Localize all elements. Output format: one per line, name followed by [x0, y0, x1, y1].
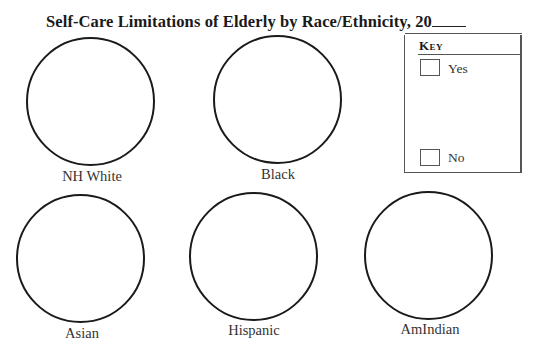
legend-swatch-no [420, 149, 440, 166]
pie-nh-white [26, 37, 155, 166]
year-blank [432, 12, 466, 27]
legend-box: Key Yes No [404, 35, 522, 173]
pie-amindian [364, 191, 493, 320]
pie-black [213, 35, 342, 164]
pie-hispanic [189, 192, 318, 321]
pie-label-black: Black [261, 166, 295, 183]
legend-label-yes: Yes [448, 61, 468, 77]
chart-title-text: Self-Care Limitations of Elderly by Race… [46, 12, 432, 31]
legend-label-no: No [448, 150, 465, 166]
legend-title-rule [418, 54, 522, 55]
key-top-rule [405, 33, 522, 34]
legend-swatch-yes [420, 59, 440, 76]
pie-asian [16, 194, 145, 323]
pie-label-asian: Asian [65, 325, 99, 342]
legend-title: Key [419, 38, 443, 54]
pie-label-nh-white: NH White [62, 168, 122, 185]
chart-title: Self-Care Limitations of Elderly by Race… [46, 12, 466, 32]
pie-label-amindian: AmIndian [401, 321, 460, 338]
pie-label-hispanic: Hispanic [228, 322, 280, 339]
